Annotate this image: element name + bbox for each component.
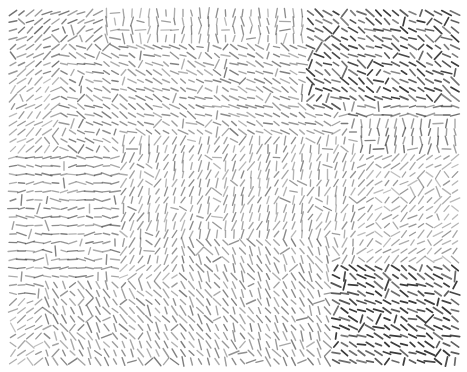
orientation-dash: [264, 130, 271, 135]
orientation-dash: [332, 293, 341, 294]
orientation-dash: [445, 136, 447, 144]
orientation-dash: [314, 300, 324, 303]
orientation-dash: [366, 18, 374, 25]
orientation-dash: [325, 282, 331, 288]
orientation-dash: [230, 52, 239, 58]
orientation-dash: [53, 325, 58, 329]
orientation-dash: [376, 314, 381, 324]
orientation-dash: [284, 265, 285, 271]
orientation-dash: [96, 52, 99, 59]
orientation-dash: [187, 88, 196, 90]
orientation-dash: [332, 45, 339, 50]
orientation-dash: [51, 88, 60, 92]
orientation-dash: [86, 182, 93, 184]
orientation-dash: [78, 289, 84, 297]
orientation-dash: [417, 61, 425, 67]
orientation-dash: [208, 197, 209, 203]
orientation-dash: [10, 165, 17, 166]
orientation-dash: [153, 78, 162, 84]
orientation-dash: [366, 342, 373, 346]
orientation-dash: [120, 174, 127, 175]
orientation-dash: [454, 69, 455, 76]
orientation-dash: [417, 155, 425, 161]
orientation-dash: [77, 26, 85, 34]
orientation-dash: [240, 180, 244, 186]
orientation-dash: [163, 137, 168, 144]
orientation-dash: [182, 59, 185, 69]
orientation-dash: [181, 187, 185, 195]
orientation-dash: [442, 336, 450, 337]
orientation-dash: [69, 157, 76, 159]
orientation-field-texture: [0, 0, 467, 372]
orientation-dash: [53, 344, 59, 346]
orientation-dash: [409, 38, 416, 39]
orientation-dash: [190, 306, 193, 315]
orientation-dash: [284, 205, 287, 212]
orientation-dash: [424, 113, 434, 116]
orientation-dash: [204, 63, 214, 65]
orientation-dash: [43, 111, 51, 118]
orientation-dash: [401, 154, 406, 161]
orientation-dash: [46, 197, 47, 204]
orientation-dash: [434, 326, 442, 330]
orientation-dash: [35, 326, 42, 330]
orientation-dash: [232, 221, 237, 231]
orientation-dash: [410, 206, 415, 212]
orientation-dash: [147, 341, 152, 348]
orientation-dash: [19, 208, 25, 210]
orientation-dash: [341, 266, 348, 270]
orientation-dash: [324, 293, 330, 294]
orientation-dash: [361, 146, 363, 152]
orientation-dash: [259, 162, 261, 170]
orientation-dash: [153, 95, 161, 102]
orientation-dash: [342, 238, 347, 247]
orientation-dash: [384, 207, 389, 211]
orientation-dash: [325, 70, 330, 75]
orientation-dash: [78, 104, 84, 110]
orientation-dash: [166, 35, 167, 41]
orientation-dash: [213, 106, 222, 107]
orientation-dash: [300, 350, 304, 356]
orientation-dash: [25, 293, 35, 294]
orientation-dash: [411, 240, 414, 245]
orientation-dash: [111, 62, 119, 66]
orientation-dash: [94, 81, 102, 82]
orientation-dash: [191, 163, 192, 170]
orientation-dash: [419, 214, 423, 220]
orientation-dash: [452, 265, 458, 270]
orientation-dash: [232, 155, 236, 161]
orientation-dash: [10, 317, 15, 321]
orientation-dash: [172, 291, 178, 296]
orientation-dash: [170, 71, 178, 74]
orientation-dash: [93, 242, 102, 244]
orientation-dash: [9, 259, 17, 261]
orientation-dash: [10, 62, 16, 65]
orientation-dash: [292, 316, 295, 322]
orientation-dash: [10, 285, 17, 286]
orientation-dash: [174, 18, 175, 24]
orientation-dash: [229, 351, 239, 355]
orientation-dash: [233, 9, 235, 17]
orientation-dash: [71, 339, 74, 349]
orientation-dash: [324, 207, 332, 211]
orientation-dash: [105, 358, 109, 366]
orientation-dash: [213, 257, 221, 262]
orientation-dash: [282, 123, 288, 125]
orientation-dash: [290, 265, 298, 271]
orientation-dash: [376, 19, 381, 24]
orientation-dash: [409, 12, 416, 15]
orientation-dash: [216, 306, 218, 315]
orientation-dash: [336, 333, 337, 339]
orientation-dash: [249, 340, 252, 349]
orientation-dash: [112, 122, 118, 125]
orientation-dash: [86, 290, 93, 298]
orientation-dash: [215, 54, 220, 58]
orientation-dash: [343, 161, 346, 170]
orientation-dash: [292, 145, 296, 153]
orientation-dash: [96, 340, 100, 349]
orientation-dash: [404, 145, 405, 152]
orientation-dash: [70, 351, 75, 355]
orientation-dash: [104, 147, 109, 152]
orientation-dash: [302, 230, 303, 237]
orientation-dash: [274, 172, 279, 178]
